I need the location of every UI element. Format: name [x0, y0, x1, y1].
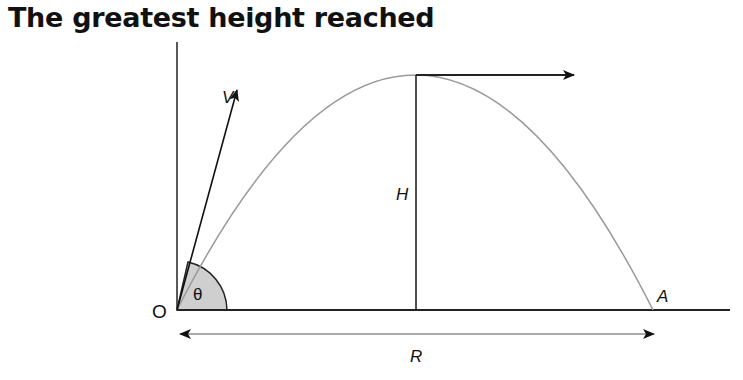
- range-label: R: [410, 347, 422, 366]
- velocity-label: V: [222, 88, 235, 107]
- height-label: H: [396, 185, 409, 204]
- trajectory-curve: [177, 75, 653, 310]
- landing-point-label: A: [656, 287, 668, 306]
- projectile-diagram: V H R O A θ: [0, 0, 743, 380]
- angle-label: θ: [193, 285, 202, 304]
- origin-label: O: [152, 301, 167, 322]
